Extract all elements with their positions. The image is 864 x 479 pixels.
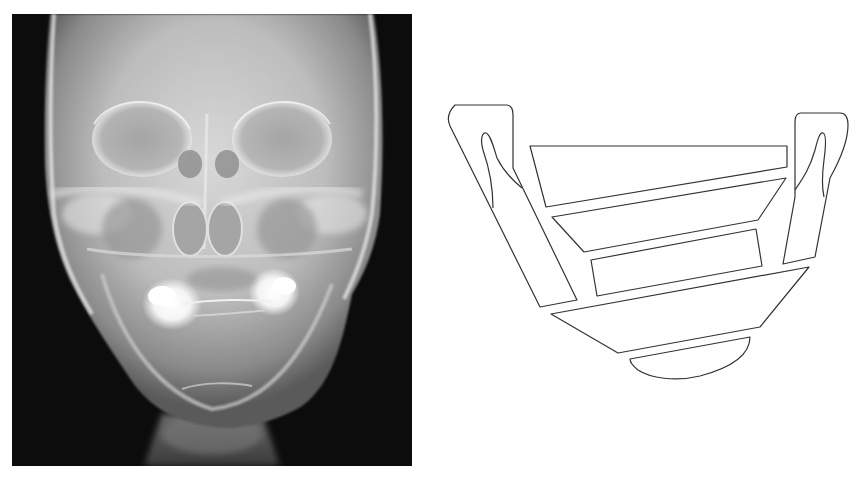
left-inner-slit-shape [482, 133, 522, 208]
lower-trapezoid-shape [551, 267, 809, 353]
skull-xray-image [12, 14, 412, 466]
diagram-panel: Schematic line diagram of segmented faci… [430, 90, 864, 400]
bottom-crescent-shape [630, 337, 750, 379]
second-quad-shape [552, 178, 786, 252]
right-inner-slit-shape [795, 133, 825, 197]
right-flap-shape [783, 113, 848, 264]
figure: Frontal skull X-ray with bright radiopaq… [0, 0, 864, 479]
segment-diagram [430, 90, 864, 400]
upper-quad-shape [530, 146, 787, 207]
xray-panel: Frontal skull X-ray with bright radiopaq… [12, 14, 412, 466]
middle-rect-shape [591, 229, 762, 296]
left-flap-shape [448, 105, 577, 307]
